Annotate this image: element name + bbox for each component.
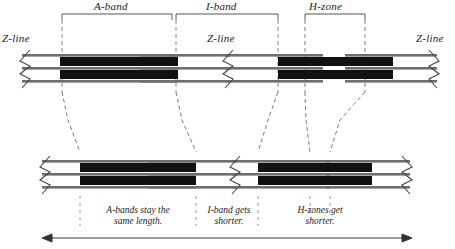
label-h-zone: H-zone xyxy=(309,0,342,12)
relaxed-myofibril xyxy=(20,50,439,88)
a-band-bracket xyxy=(62,14,172,20)
caption-i-band-line1: I-band gets xyxy=(207,205,250,215)
length-arrow xyxy=(42,234,412,242)
caption-i-band-line2: shorter. xyxy=(215,216,244,226)
caption-a-band-line2: same length. xyxy=(114,216,162,226)
i-band-bracket xyxy=(176,14,278,20)
connector-lines xyxy=(62,92,365,152)
h-zone-bracket xyxy=(305,14,365,20)
label-i-band: I-band xyxy=(206,0,237,12)
label-z-line-right: Z-line xyxy=(416,32,443,44)
label-a-band: A-band xyxy=(94,0,128,12)
label-z-line-left: Z-line xyxy=(2,32,29,44)
caption-h-zone-line1: H-zones get xyxy=(297,205,342,215)
contracted-myofibril xyxy=(40,156,412,194)
caption-a-band-line1: A-bands stay the xyxy=(106,205,169,215)
label-z-line-middle: Z-line xyxy=(207,32,234,44)
caption-h-zone-line2: shorter. xyxy=(306,216,335,226)
